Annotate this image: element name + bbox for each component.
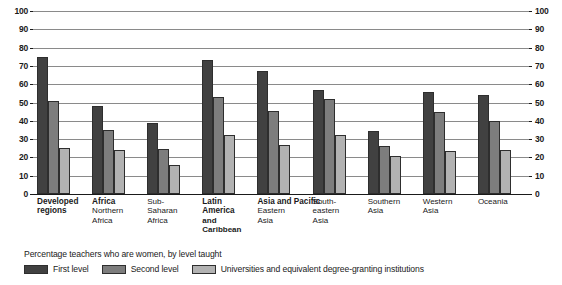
y-tickmark-right-0	[529, 194, 532, 195]
legend-swatch-icon	[24, 265, 48, 274]
y-tick-left-10: 10	[6, 172, 28, 181]
x-axis-group-label: WesternAsia	[423, 197, 453, 216]
legend-item-first-level[interactable]: First level	[24, 264, 89, 274]
legend-item-second-level[interactable]: Second level	[102, 264, 179, 274]
y-tickmark-left-80	[30, 48, 33, 49]
y-tick-left-80: 80	[6, 44, 28, 53]
y-tick-right-0: 0	[535, 190, 559, 199]
chart-caption: Percentage teachers who are women, by le…	[24, 249, 222, 259]
bar	[379, 146, 390, 194]
bar	[478, 95, 489, 194]
x-label-sub: Southern	[368, 197, 400, 206]
y-tick-right-70: 70	[535, 62, 559, 71]
y-tickmark-right-40	[529, 121, 532, 122]
x-label-sub: Western	[423, 197, 453, 206]
bar	[169, 165, 180, 194]
x-label-head: Latin	[202, 197, 241, 206]
bar	[335, 135, 346, 194]
bar-group	[368, 11, 401, 194]
bar-group	[37, 11, 70, 194]
y-tick-left-20: 20	[6, 153, 28, 162]
y-tick-left-100: 100	[6, 7, 28, 16]
x-axis-group-label: Asia and PacificEasternAsia	[257, 197, 320, 225]
x-label-sub: Oceania	[478, 197, 508, 206]
y-tickmark-right-60	[529, 84, 532, 85]
bar-group	[92, 11, 125, 194]
bar	[445, 151, 456, 194]
x-axis-group-label: LatinAmericaandCaribbean	[202, 197, 241, 234]
chart-legend: First levelSecond levelUniversities and …	[24, 264, 437, 274]
bar-group	[423, 11, 456, 194]
x-label-sub: Asia	[423, 206, 453, 215]
bar-group	[257, 11, 290, 194]
y-tick-right-40: 40	[535, 117, 559, 126]
bar	[434, 112, 445, 194]
y-tickmark-right-80	[529, 48, 532, 49]
y-tickmark-left-50	[30, 103, 33, 104]
y-tickmark-left-70	[30, 66, 33, 67]
bar	[257, 71, 268, 194]
x-label-sub: South-	[313, 197, 340, 206]
y-tick-left-40: 40	[6, 117, 28, 126]
x-label-sub: Africa	[147, 216, 177, 225]
y-tick-right-30: 30	[535, 135, 559, 144]
x-label-head: Asia and Pacific	[257, 197, 320, 206]
y-tickmark-left-40	[30, 121, 33, 122]
y-tick-left-70: 70	[6, 62, 28, 71]
y-tick-right-50: 50	[535, 99, 559, 108]
y-tickmark-right-70	[529, 66, 532, 67]
y-tick-right-10: 10	[535, 172, 559, 181]
bar	[103, 130, 114, 194]
x-label-sub: Asia	[368, 206, 400, 215]
y-tick-right-80: 80	[535, 44, 559, 53]
bar-group	[313, 11, 346, 194]
y-tickmark-left-10	[30, 176, 33, 177]
x-label-sub: and	[202, 216, 241, 225]
legend-label: First level	[53, 264, 89, 274]
legend-label: Universities and equivalent degree-grant…	[221, 264, 424, 274]
bar-group	[202, 11, 235, 194]
bar	[59, 148, 70, 194]
y-tickmark-left-30	[30, 139, 33, 140]
x-label-sub: Asia	[257, 216, 320, 225]
x-label-head: Developed	[37, 197, 78, 206]
bar	[368, 131, 379, 194]
chart-figure: DevelopedregionsAfricaNorthernAfricaSub-…	[0, 0, 562, 285]
y-tick-left-50: 50	[6, 99, 28, 108]
y-tick-right-100: 100	[535, 7, 559, 16]
bar	[158, 149, 169, 194]
x-label-sub: Asia	[313, 216, 340, 225]
y-tickmark-right-20	[529, 157, 532, 158]
x-axis-group-label: Sub-SaharanAfrica	[147, 197, 177, 225]
y-tickmark-left-20	[30, 157, 33, 158]
plot-area	[33, 11, 529, 194]
legend-swatch-icon	[102, 265, 126, 274]
x-label-sub: Saharan	[147, 206, 177, 215]
bar	[92, 106, 103, 194]
bar	[390, 156, 401, 194]
y-tickmark-left-0	[30, 194, 33, 195]
bar	[324, 99, 335, 194]
x-label-head: America	[202, 206, 241, 215]
y-tick-left-0: 0	[6, 190, 28, 199]
y-tickmark-right-30	[529, 139, 532, 140]
y-tickmark-right-100	[529, 11, 532, 12]
bar-group	[478, 11, 511, 194]
x-axis-group-label: South-easternAsia	[313, 197, 340, 225]
bar	[37, 57, 48, 194]
bar	[489, 121, 500, 194]
x-axis-labels: DevelopedregionsAfricaNorthernAfricaSub-…	[33, 197, 529, 245]
y-tickmark-right-10	[529, 176, 532, 177]
legend-item-universities[interactable]: Universities and equivalent degree-grant…	[192, 264, 424, 274]
x-label-head: Africa	[92, 197, 123, 206]
bar	[202, 60, 213, 194]
x-axis-group-label: Oceania	[478, 197, 508, 206]
x-axis-group-label: Developedregions	[37, 197, 78, 216]
x-label-sub: Sub-	[147, 197, 177, 206]
y-tick-left-30: 30	[6, 135, 28, 144]
x-label-head: regions	[37, 206, 78, 215]
bar	[279, 145, 290, 194]
y-tick-right-60: 60	[535, 80, 559, 89]
y-tickmark-right-50	[529, 103, 532, 104]
bar	[423, 92, 434, 194]
